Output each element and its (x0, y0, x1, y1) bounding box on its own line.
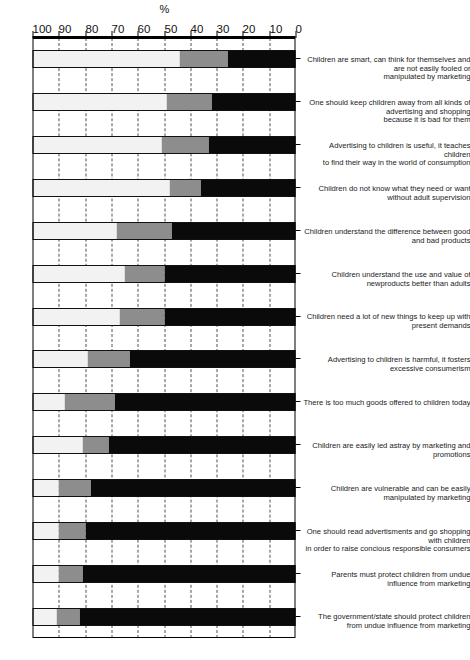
category-tick (295, 487, 300, 488)
category-label: Children need a lot of new things to kee… (300, 313, 470, 330)
category-label: There is too much goods offered to child… (300, 399, 470, 408)
value-tick-label-60: 60 (137, 23, 150, 35)
value-tick-label-100: 100 (32, 23, 51, 35)
category-label: Children are easily led astray by market… (300, 442, 470, 459)
category-label: Advertising to children is useful, it te… (300, 142, 470, 168)
category-tick (295, 187, 300, 188)
value-tick-label-90: 90 (58, 23, 71, 35)
category-label: Children are smart, can think for themse… (300, 56, 470, 82)
category-label: Advertising to children is harmful, it f… (300, 356, 470, 373)
axis-unit-label: % (159, 3, 169, 15)
plot-frame (32, 38, 295, 638)
category-tick (295, 58, 300, 59)
category-tick (295, 530, 300, 531)
category-tick (295, 101, 300, 102)
plot-area (32, 38, 295, 638)
category-tick (295, 444, 300, 445)
value-tick-label-10: 10 (269, 23, 282, 35)
value-tick-label-30: 30 (216, 23, 229, 35)
value-tick-label-0: 0 (295, 23, 301, 35)
category-tick (295, 358, 300, 359)
category-label: The government/state should protect chil… (300, 613, 470, 630)
category-label: One should read advertisments and go sho… (300, 528, 470, 554)
category-tick (295, 316, 300, 317)
category-tick (295, 616, 300, 617)
category-tick (295, 230, 300, 231)
value-tick-label-50: 50 (164, 23, 177, 35)
value-tick-label-70: 70 (111, 23, 124, 35)
category-label: Children are vulnerable and can be easil… (300, 485, 470, 502)
value-tick-label-40: 40 (190, 23, 203, 35)
category-tick (295, 573, 300, 574)
value-tick-label-20: 20 (242, 23, 255, 35)
category-tick (295, 401, 300, 402)
category-label: One should keep children away from all k… (300, 99, 470, 125)
category-tick (295, 273, 300, 274)
category-label: Children do not know what they need or w… (300, 185, 470, 202)
category-label: Parents must protect children from undue… (300, 571, 470, 588)
category-tick (295, 144, 300, 145)
value-tick-label-80: 80 (85, 23, 98, 35)
category-label: Children understand the difference betwe… (300, 228, 470, 245)
category-label: Children understand the use and value of… (300, 271, 470, 288)
